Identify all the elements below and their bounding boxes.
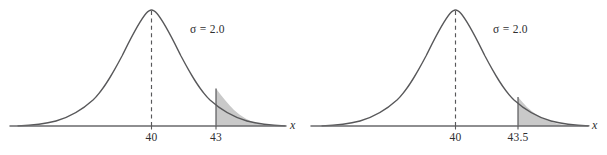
left-sigma-label: σ = 2.0 xyxy=(190,24,225,36)
left-x-axis-label: x xyxy=(290,119,295,131)
left-shaded-tail-region xyxy=(216,89,280,127)
right-tick-label-boundary: 43.5 xyxy=(508,132,529,144)
right-sigma-label: σ = 2.0 xyxy=(493,24,528,36)
distribution-panel-left: σ = 2.0 40 43 x xyxy=(0,0,303,155)
normal-distribution-figure: σ = 2.0 40 43 x σ = 2.0 40 43.5 x xyxy=(0,0,607,155)
right-tick-label-mean: 40 xyxy=(450,132,462,144)
distribution-panel-right: σ = 2.0 40 43.5 x xyxy=(303,0,606,155)
left-tick-label-mean: 40 xyxy=(146,132,158,144)
left-tick-label-boundary: 43 xyxy=(210,132,222,144)
right-x-axis-label: x xyxy=(592,119,597,131)
